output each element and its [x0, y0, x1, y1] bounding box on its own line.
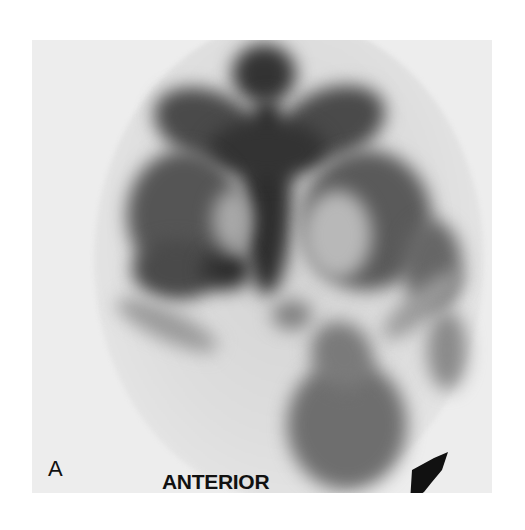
- panel-label: A: [48, 458, 63, 480]
- cardiac-region: [302, 190, 372, 280]
- scan-image: A ANTERIOR: [32, 40, 492, 493]
- left-lung-region: [212, 190, 252, 250]
- arrow-indicator-icon: [402, 448, 452, 493]
- uptake-flank-right: [427, 310, 467, 390]
- uptake-left-costal: [202, 250, 252, 290]
- view-label: ANTERIOR: [162, 471, 269, 492]
- uptake-mid: [272, 300, 312, 330]
